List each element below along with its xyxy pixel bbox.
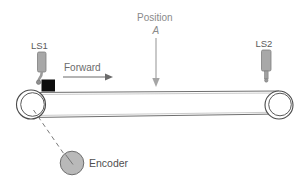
position-label-a: A (152, 25, 160, 36)
ls1-label: LS1 (31, 40, 48, 51)
forward-label: Forward (64, 62, 101, 73)
ls2-tip-icon (265, 79, 268, 82)
position-arrow-head-icon (152, 78, 159, 87)
target-block (42, 80, 56, 92)
ls1-body (38, 52, 47, 72)
encoder[interactable] (34, 110, 84, 175)
pulley-left-inner-circle (21, 93, 45, 117)
conveyor-belt-diagram: LS1 LS2 Forward Position A Encoder (0, 0, 298, 181)
forward-arrow-head-icon (105, 74, 113, 81)
belt-bottom-line (31, 114, 279, 118)
ls2-stem (265, 71, 269, 79)
ls2-body (262, 50, 272, 71)
diagram-canvas: LS1 LS2 Forward Position A Encoder (0, 0, 298, 181)
ls1-roller-icon (36, 80, 40, 84)
belt-top-line (31, 91, 279, 93)
position-arrow (152, 38, 159, 87)
pulley-left (17, 90, 46, 119)
encoder-label: Encoder (89, 157, 129, 169)
position-label: Position (137, 12, 173, 23)
forward-arrow (63, 74, 113, 81)
belt-top-inner-line (33, 93, 279, 95)
conveyor-belt (31, 91, 279, 118)
pulley-right (265, 91, 293, 119)
ls2-label: LS2 (256, 38, 273, 49)
limit-switch-ls2[interactable] (262, 50, 272, 82)
pulley-right-inner-circle (269, 93, 292, 116)
